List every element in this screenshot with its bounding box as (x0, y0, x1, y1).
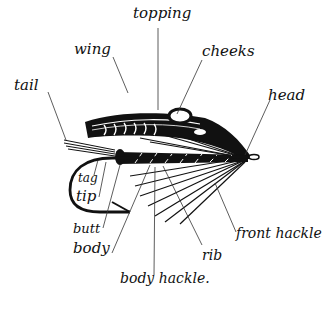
label-tag: tag (78, 172, 98, 184)
tail-drawing (64, 140, 115, 156)
hook-barb (112, 202, 130, 212)
label-butt: butt (73, 222, 100, 235)
label-topping: topping (133, 6, 191, 21)
hook-eye (249, 155, 259, 160)
label-rib: rib (202, 248, 222, 262)
label-front-hackle: front hackle (236, 226, 322, 240)
cheek-drawing (169, 109, 191, 123)
label-cheeks: cheeks (202, 44, 255, 59)
label-tip: tip (76, 189, 96, 204)
label-tail: tail (14, 78, 39, 93)
label-head: head (268, 88, 305, 103)
label-body-hackle: body hackle. (120, 271, 210, 285)
cheek-spot (194, 129, 206, 135)
label-wing: wing (74, 42, 111, 57)
label-body: body (73, 241, 110, 256)
